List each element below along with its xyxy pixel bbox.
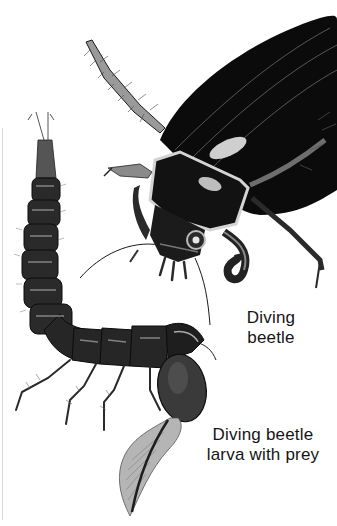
diving-beetle-label: Diving beetle bbox=[226, 308, 316, 348]
diving-beetle-label-line1: Diving bbox=[226, 308, 316, 328]
larva-label: Diving beetle larva with prey bbox=[188, 425, 337, 465]
larva-label-line2: larva with prey bbox=[188, 445, 337, 465]
diving-beetle-label-line2: beetle bbox=[226, 328, 316, 348]
larva-label-line1: Diving beetle bbox=[188, 425, 337, 445]
diving-beetle-illustration bbox=[80, 16, 337, 325]
